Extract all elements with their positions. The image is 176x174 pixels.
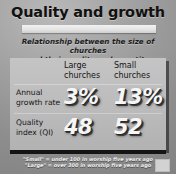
value-quality-index-large: 48 — [64, 115, 92, 139]
row-label-line-1: Annual — [16, 88, 64, 98]
row-label-annual-growth-rate: Annual growth rate — [16, 88, 64, 107]
footnote-line-2: "Large" = over 300 in worship five years… — [8, 162, 168, 168]
slide-canvas: Quality and growth Relationship between … — [0, 0, 176, 174]
row-label-quality-index: Quality index (QI) — [16, 118, 64, 137]
footnote: "Small" = under 100 in worship five year… — [8, 156, 168, 168]
column-header-small-line-1: Small — [114, 61, 162, 71]
column-header-large-line-1: Large — [64, 61, 112, 71]
comparison-table-panel: Large churches Small churches Annual gro… — [10, 58, 166, 150]
bottom-accent-bar — [10, 150, 166, 154]
column-header-small-churches: Small churches — [114, 61, 162, 81]
row-label-line-1: Quality — [16, 118, 64, 128]
column-header-large-line-2: churches — [64, 71, 112, 81]
value-quality-index-small: 52 — [114, 115, 142, 139]
row-label-line-2: index (QI) — [16, 128, 64, 138]
subtitle-line-1: Relationship between the size of churche… — [8, 37, 168, 55]
column-header-small-line-2: churches — [114, 71, 162, 81]
value-growth-rate-small: 13% — [114, 85, 163, 109]
corner-logo-placeholder — [155, 159, 170, 172]
row-label-line-2: growth rate — [16, 98, 64, 108]
column-header-large-churches: Large churches — [64, 61, 112, 81]
page-title: Quality and growth — [0, 4, 176, 20]
title-divider-bar — [22, 25, 156, 33]
value-growth-rate-large: 3% — [64, 85, 99, 109]
row-divider — [14, 113, 162, 114]
